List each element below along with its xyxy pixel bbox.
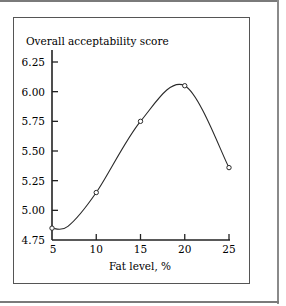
data-point-marker (138, 119, 142, 123)
y-axis-title: Overall acceptability score (26, 35, 169, 47)
data-points (50, 84, 231, 231)
y-tick-label: 5.75 (22, 115, 45, 127)
x-tick-label: 10 (90, 243, 103, 255)
x-axis-ticks: 510152025 (50, 234, 236, 255)
axes (52, 50, 230, 240)
x-axis-title: Fat level, % (109, 260, 171, 272)
data-line (52, 84, 229, 229)
x-tick-label: 5 (50, 243, 57, 255)
y-tick-label: 6.25 (22, 56, 45, 68)
data-point-marker (227, 165, 231, 169)
y-tick-label: 4.75 (22, 234, 45, 246)
line-chart: Overall acceptability score Fat level, %… (0, 0, 286, 306)
y-tick-label: 6.00 (22, 86, 45, 98)
y-tick-label: 5.50 (22, 145, 45, 157)
x-tick-label: 20 (178, 243, 191, 255)
x-tick-label: 15 (134, 243, 147, 255)
x-tick-label: 25 (222, 243, 235, 255)
data-point-marker (183, 84, 187, 88)
data-point-marker (94, 190, 98, 194)
data-point-marker (50, 226, 54, 230)
y-tick-label: 5.25 (22, 175, 45, 187)
y-tick-label: 5.00 (22, 204, 45, 216)
